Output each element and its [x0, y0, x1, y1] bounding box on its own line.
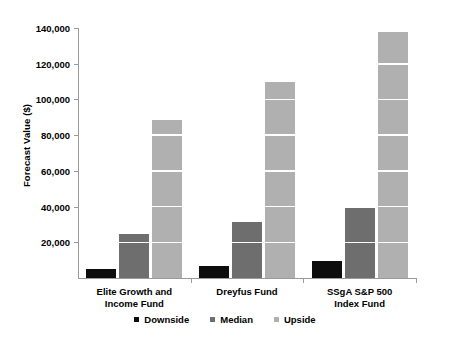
gridline-overlay — [232, 242, 262, 244]
gridline-overlay — [152, 242, 182, 244]
legend-item-median[interactable]: Median — [210, 314, 253, 325]
category-label-line: Index Fund — [303, 298, 416, 310]
bar-downside-0 — [86, 269, 116, 278]
category-label-2: SSgA S&P 500Index Fund — [303, 286, 416, 309]
bar-upside-2 — [378, 32, 408, 278]
chart-legend: DownsideMedianUpside — [0, 314, 450, 325]
bar-upside-1 — [265, 82, 295, 278]
legend-item-downside[interactable]: Downside — [134, 314, 189, 325]
bar-upside-0 — [152, 120, 182, 278]
legend-swatch-icon — [274, 317, 279, 322]
gridline-overlay — [265, 134, 295, 136]
gridline-overlay — [378, 63, 408, 65]
gridline-overlay — [378, 134, 408, 136]
y-axis-tick-label: 60,000 — [8, 165, 70, 176]
bar-median-2 — [345, 208, 375, 278]
bar-downside-2 — [312, 261, 342, 278]
bar-median-1 — [232, 222, 262, 278]
y-axis-tick-label: 120,000 — [8, 58, 70, 69]
bar-chart: Forecast Value ($) 20,00040,00060,00080,… — [0, 0, 450, 341]
legend-swatch-icon — [210, 317, 215, 322]
gridline-overlay — [345, 242, 375, 244]
category-label-0: Elite Growth andIncome Fund — [78, 286, 191, 309]
gridline-overlay — [265, 99, 295, 101]
x-axis-tick-mark — [303, 278, 304, 283]
gridline-overlay — [378, 170, 408, 172]
bar-median-0 — [119, 234, 149, 278]
gridline-overlay — [265, 242, 295, 244]
legend-label: Upside — [284, 314, 316, 325]
y-axis-tick-label: 20,000 — [8, 237, 70, 248]
category-label-line: Elite Growth and — [78, 286, 191, 298]
x-axis-tick-mark — [416, 278, 417, 283]
gridline-overlay — [378, 99, 408, 101]
category-label-1: Dreyfus Fund — [191, 286, 304, 298]
legend-swatch-icon — [134, 317, 139, 322]
gridline-overlay — [378, 206, 408, 208]
y-axis-tick-label: 100,000 — [8, 94, 70, 105]
x-axis-line — [78, 278, 416, 279]
gridline-overlay — [265, 206, 295, 208]
y-axis-tick-label: 80,000 — [8, 130, 70, 141]
gridline-overlay — [152, 134, 182, 136]
gridline-overlay — [152, 206, 182, 208]
category-label-line: Dreyfus Fund — [191, 286, 304, 298]
plot-area — [78, 28, 416, 278]
y-axis-tick-label: 140,000 — [8, 23, 70, 34]
category-label-line: Income Fund — [78, 298, 191, 310]
gridline-overlay — [119, 242, 149, 244]
gridline-overlay — [152, 170, 182, 172]
y-axis-tick-label: 40,000 — [8, 201, 70, 212]
legend-label: Median — [220, 314, 253, 325]
legend-label: Downside — [144, 314, 189, 325]
legend-item-upside[interactable]: Upside — [274, 314, 316, 325]
gridline-overlay — [378, 242, 408, 244]
bar-downside-1 — [199, 266, 229, 279]
category-label-line: SSgA S&P 500 — [303, 286, 416, 298]
gridline-overlay — [265, 170, 295, 172]
x-axis-tick-mark — [191, 278, 192, 283]
